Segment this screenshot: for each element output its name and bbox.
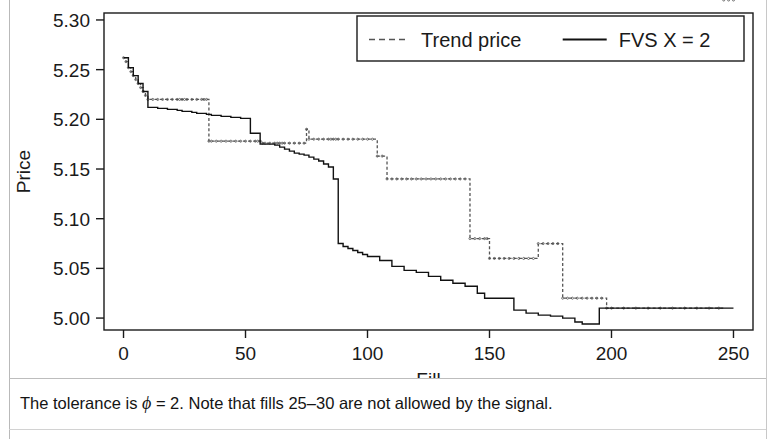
y-tick-label: 5.10	[53, 209, 90, 230]
x-tick-label: 250	[718, 343, 750, 364]
figure-caption: The tolerance is ϕ = 2. Note that fills …	[20, 392, 755, 415]
x-tick-label: 150	[474, 343, 506, 364]
caption-suffix-text: = 2. Note that fills 25–30 are not allow…	[151, 394, 552, 412]
x-tick-label: 200	[596, 343, 628, 364]
caption-phi-symbol: ϕ	[142, 393, 151, 413]
chart-area: 5.005.055.105.155.205.255.30 05010015020…	[0, 0, 772, 378]
caption-bottom-rule	[9, 429, 766, 430]
y-tick-label: 5.25	[53, 60, 90, 81]
y-tick-label: 5.05	[53, 258, 90, 279]
legend-box: Trend priceFVS X = 2	[357, 16, 744, 61]
y-tick-label: 5.20	[53, 109, 90, 130]
series-marker	[728, 0, 730, 1]
x-tick-label: 100	[352, 343, 384, 364]
series-marker	[723, 0, 725, 1]
legend-label: FVS X = 2	[619, 29, 711, 51]
y-tick-label: 5.15	[53, 159, 90, 180]
y-tick-label: 5.00	[53, 308, 90, 329]
y-axis-ticks: 5.005.055.105.155.205.255.30	[53, 10, 104, 329]
x-tick-label: 50	[235, 343, 256, 364]
x-tick-label: 0	[118, 343, 129, 364]
caption-prefix-text: The tolerance is	[20, 394, 142, 412]
legend-label: Trend price	[421, 29, 521, 51]
x-axis-ticks: 050100150200250	[118, 330, 749, 364]
y-tick-label: 5.30	[53, 10, 90, 31]
caption-top-rule	[9, 378, 766, 379]
x-axis-title: Fill	[416, 369, 440, 378]
series-marker	[732, 0, 734, 1]
y-axis-title: Price	[13, 150, 34, 193]
figure-container: 5.005.055.105.155.205.255.30 05010015020…	[0, 0, 772, 439]
price-vs-fill-plot: 5.005.055.105.155.205.255.30 05010015020…	[0, 0, 772, 378]
